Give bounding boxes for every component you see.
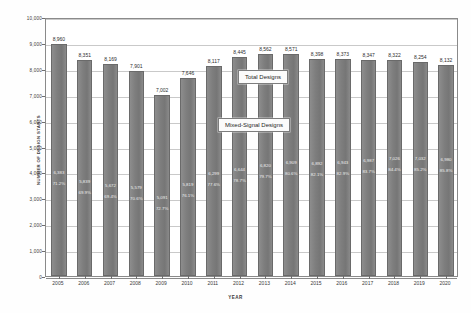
bar-group[interactable]: 7,6465,81976.1% bbox=[180, 17, 195, 276]
bar-total-value-label: 8,373 bbox=[337, 51, 350, 57]
bar-group[interactable]: 8,5716,90980.6% bbox=[283, 17, 298, 276]
bar-mixed-signal-value-label: 6,820 bbox=[260, 163, 271, 168]
x-axis-tick-label: 2015 bbox=[310, 280, 321, 286]
x-axis-tick-mark bbox=[369, 276, 370, 279]
bar-total-designs[interactable] bbox=[335, 59, 350, 276]
bar-mixed-signal-percent-label: 77.6% bbox=[208, 182, 220, 187]
bar-group[interactable]: 8,5626,82079.7% bbox=[258, 17, 273, 276]
bar-mixed-signal-percent-label: 78.7% bbox=[233, 178, 245, 183]
x-axis-tick-label: 2013 bbox=[259, 280, 270, 286]
plot-area: 8,9606,38371.2%8,3515,83969.9%8,1695,672… bbox=[45, 18, 458, 277]
bar-total-value-label: 8,445 bbox=[233, 49, 246, 55]
y-axis-tick-mark bbox=[42, 225, 45, 226]
bar-total-value-label: 8,322 bbox=[388, 52, 401, 58]
x-axis-tick-label: 2019 bbox=[414, 280, 425, 286]
annotation-mixed-signal-designs: Mixed-Signal Designs bbox=[218, 118, 290, 132]
bar-mixed-signal-value-label: 6,980 bbox=[441, 157, 452, 162]
bar-mixed-signal-value-label: 7,026 bbox=[389, 156, 400, 161]
bar-total-designs[interactable] bbox=[154, 95, 169, 276]
bar-total-value-label: 8,562 bbox=[259, 46, 272, 52]
x-axis-tick-label: 2009 bbox=[156, 280, 167, 286]
bar-mixed-signal-value-label: 6,644 bbox=[234, 167, 245, 172]
bar-mixed-signal-percent-label: 80.6% bbox=[285, 171, 297, 176]
y-axis-tick-mark bbox=[42, 148, 45, 149]
x-axis-tick-mark bbox=[85, 276, 86, 279]
annotation-total-designs: Total Designs bbox=[238, 70, 288, 84]
bar-mixed-signal-percent-label: 83.7% bbox=[362, 169, 374, 174]
y-axis-tick-mark bbox=[42, 199, 45, 200]
bar-mixed-signal-percent-label: 85.2% bbox=[414, 167, 426, 172]
bar-total-designs[interactable] bbox=[51, 44, 66, 276]
bar-mixed-signal-value-label: 7,032 bbox=[415, 156, 426, 161]
bar-mixed-signal-value-label: 5,839 bbox=[79, 179, 90, 184]
x-axis-tick-mark bbox=[394, 276, 395, 279]
x-axis-tick-label: 2016 bbox=[336, 280, 347, 286]
x-axis-tick-label: 2014 bbox=[285, 280, 296, 286]
x-axis-tick-label: 2006 bbox=[78, 280, 89, 286]
x-axis-tick-mark bbox=[240, 276, 241, 279]
bar-group[interactable]: 8,1176,29977.6% bbox=[206, 17, 221, 276]
bar-group[interactable]: 8,2547,03285.2% bbox=[413, 17, 428, 276]
bar-total-designs[interactable] bbox=[283, 54, 298, 276]
bar-total-designs[interactable] bbox=[309, 59, 324, 277]
bar-group[interactable]: 8,9606,38371.2% bbox=[51, 17, 66, 276]
bar-mixed-signal-percent-label: 84.4% bbox=[388, 167, 400, 172]
y-axis-tick-label: 1,000 bbox=[2, 249, 42, 254]
x-axis-tick-mark bbox=[111, 276, 112, 279]
bar-total-designs[interactable] bbox=[77, 60, 92, 276]
bar-mixed-signal-value-label: 6,909 bbox=[286, 160, 297, 165]
bar-group[interactable]: 8,3986,89282.1% bbox=[309, 17, 324, 276]
bar-mixed-signal-value-label: 6,383 bbox=[53, 170, 64, 175]
bars-layer: 8,9606,38371.2%8,3515,83969.9%8,1695,672… bbox=[46, 19, 457, 276]
bar-mixed-signal-percent-label: 82.9% bbox=[337, 171, 349, 176]
bar-group[interactable]: 7,0025,09172.7% bbox=[154, 17, 169, 276]
y-axis-tick-label: 0 bbox=[2, 275, 42, 280]
bar-mixed-signal-value-label: 6,299 bbox=[208, 171, 219, 176]
y-axis-tick-mark bbox=[42, 70, 45, 71]
bar-mixed-signal-value-label: 5,579 bbox=[131, 185, 142, 190]
y-axis-tick-label: 4,000 bbox=[2, 171, 42, 176]
bar-group[interactable]: 7,9015,57970.6% bbox=[129, 17, 144, 276]
bar-total-value-label: 8,132 bbox=[440, 57, 453, 63]
bar-total-value-label: 8,960 bbox=[53, 36, 66, 42]
bar-total-designs[interactable] bbox=[180, 78, 195, 276]
bar-mixed-signal-value-label: 6,892 bbox=[312, 161, 323, 166]
bar-mixed-signal-value-label: 5,672 bbox=[105, 183, 116, 188]
bar-mixed-signal-percent-label: 71.2% bbox=[53, 181, 65, 186]
bar-total-designs[interactable] bbox=[103, 64, 118, 276]
y-axis-tick-label: 7,000 bbox=[2, 93, 42, 98]
x-axis-tick-mark bbox=[265, 276, 266, 279]
x-axis-tick-label: 2011 bbox=[207, 280, 218, 286]
bar-group[interactable]: 8,1695,67269.4% bbox=[103, 17, 118, 276]
y-axis-tick-label: 8,000 bbox=[2, 67, 42, 72]
x-axis-tick-mark bbox=[136, 276, 137, 279]
y-axis-tick-mark bbox=[42, 18, 45, 19]
bar-total-value-label: 8,169 bbox=[104, 56, 117, 62]
x-axis-title: YEAR bbox=[0, 295, 471, 300]
bar-total-designs[interactable] bbox=[361, 60, 376, 276]
x-axis-tick-mark bbox=[188, 276, 189, 279]
bar-group[interactable]: 8,4456,64478.7% bbox=[232, 17, 247, 276]
bar-mixed-signal-value-label: 5,091 bbox=[157, 195, 168, 200]
bar-total-designs[interactable] bbox=[129, 71, 144, 276]
y-axis-tick-mark bbox=[42, 277, 45, 278]
bar-mixed-signal-percent-label: 82.1% bbox=[311, 172, 323, 177]
y-axis-tick-label: 6,000 bbox=[2, 119, 42, 124]
bar-total-value-label: 8,398 bbox=[311, 51, 324, 57]
bar-group[interactable]: 8,1326,98085.8% bbox=[438, 17, 453, 276]
x-axis-tick-mark bbox=[317, 276, 318, 279]
bar-mixed-signal-percent-label: 76.1% bbox=[182, 193, 194, 198]
bar-mixed-signal-percent-label: 72.7% bbox=[156, 206, 168, 211]
bar-mixed-signal-value-label: 5,819 bbox=[182, 182, 193, 187]
x-axis-tick-label: 2005 bbox=[52, 280, 63, 286]
bar-group[interactable]: 8,3736,94382.9% bbox=[335, 17, 350, 276]
bar-group[interactable]: 8,3515,83969.9% bbox=[77, 17, 92, 276]
x-axis-tick-label: 2017 bbox=[362, 280, 373, 286]
x-axis-tick-mark bbox=[214, 276, 215, 279]
y-axis-tick-label: 10,000 bbox=[2, 16, 42, 21]
y-axis-tick-label: 3,000 bbox=[2, 197, 42, 202]
bar-group[interactable]: 8,3227,02684.4% bbox=[387, 17, 402, 276]
x-axis-tick-label: 2012 bbox=[233, 280, 244, 286]
y-axis-tick-label: 9,000 bbox=[2, 41, 42, 46]
bar-group[interactable]: 8,3476,98783.7% bbox=[361, 17, 376, 276]
